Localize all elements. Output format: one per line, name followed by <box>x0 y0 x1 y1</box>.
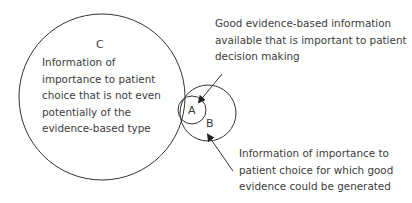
label-a: A <box>188 104 196 117</box>
arrow-to-b <box>208 135 233 171</box>
description-c: Information of importance to patient cho… <box>42 54 161 137</box>
arrow-to-a <box>199 74 222 102</box>
label-c: C <box>96 38 104 51</box>
label-b: B <box>206 117 214 130</box>
description-b: Information of importance to patient cho… <box>239 145 393 195</box>
description-a: Good evidence-based information availabl… <box>215 15 407 65</box>
